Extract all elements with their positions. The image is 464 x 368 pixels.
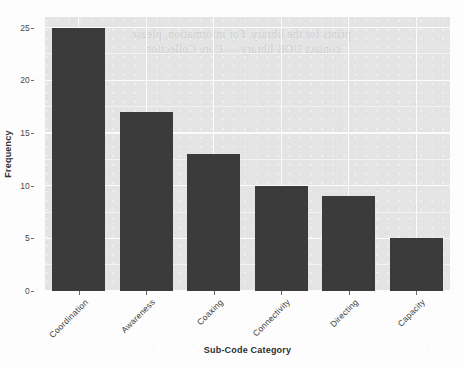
y-tick-mark (31, 28, 34, 29)
y-tick-label: 0 (25, 286, 30, 296)
x-axis-title: Sub-Code Category (45, 345, 450, 355)
gridline-y-minor (45, 106, 450, 107)
y-tick-label: 5 (25, 233, 30, 243)
gridline-y-major (45, 132, 450, 133)
scan-bleedthrough-text-1: prints for the library. For information,… (131, 28, 351, 40)
x-tick-mark (349, 291, 350, 295)
y-tick-mark (31, 133, 34, 134)
x-tick-label: Awareness (119, 297, 157, 335)
bar-chart-figure: prints for the library. For information,… (0, 0, 464, 368)
gridline-y-minor (45, 212, 450, 213)
y-tick-label: 10 (20, 181, 30, 191)
x-tick-mark (79, 291, 80, 295)
x-tick-label: Coordination (47, 297, 90, 340)
x-tick-mark (281, 291, 282, 295)
bar (322, 196, 375, 291)
x-tick-mark (214, 291, 215, 295)
y-tick-mark (31, 186, 34, 187)
y-axis-ticks: 0510152025 (0, 17, 30, 291)
x-tick-label: Directing (328, 297, 360, 329)
y-tick-mark (31, 80, 34, 81)
gridline-y-minor (45, 53, 450, 54)
gridline-y-major (45, 27, 450, 28)
plot-panel: prints for the library. For information,… (45, 17, 450, 291)
y-tick-mark (31, 238, 34, 239)
x-tick-label: Coaxing (195, 297, 225, 327)
x-tick-mark (146, 291, 147, 295)
bar (52, 28, 105, 291)
gridline-y-major (45, 80, 450, 81)
gridline-y-major (45, 185, 450, 186)
y-tick-mark (31, 291, 34, 292)
y-tick-label: 20 (20, 75, 30, 85)
bar (255, 186, 308, 291)
bar (187, 154, 240, 291)
x-tick-mark (416, 291, 417, 295)
gridline-y-minor (45, 159, 450, 160)
bar (390, 238, 443, 291)
x-axis-ticks: CoordinationAwarenessCoaxingConnectivity… (45, 291, 450, 343)
x-tick-label: Connectivity (251, 297, 293, 339)
y-tick-label: 25 (20, 23, 30, 33)
x-tick-label: Capacity (396, 297, 428, 329)
bar (120, 112, 173, 291)
y-tick-label: 15 (20, 128, 30, 138)
